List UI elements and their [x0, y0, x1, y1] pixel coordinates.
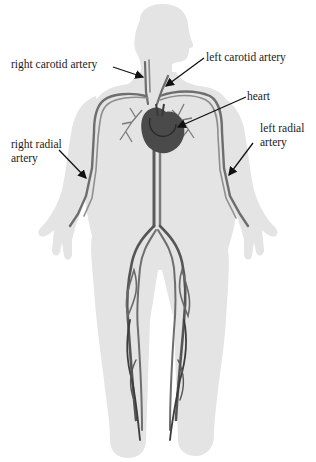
- label-left-radial-line1: left radial: [260, 122, 304, 135]
- circulatory-diagram: right carotid artery left carotid artery…: [0, 0, 316, 462]
- label-right-carotid-artery: right carotid artery: [11, 58, 97, 71]
- label-right-radial-line1: right radial: [11, 138, 62, 151]
- label-left-radial-line2: artery: [260, 136, 287, 149]
- label-heart: heart: [247, 90, 270, 103]
- label-right-radial-line2: artery: [11, 152, 38, 165]
- label-left-carotid-artery: left carotid artery: [206, 51, 286, 64]
